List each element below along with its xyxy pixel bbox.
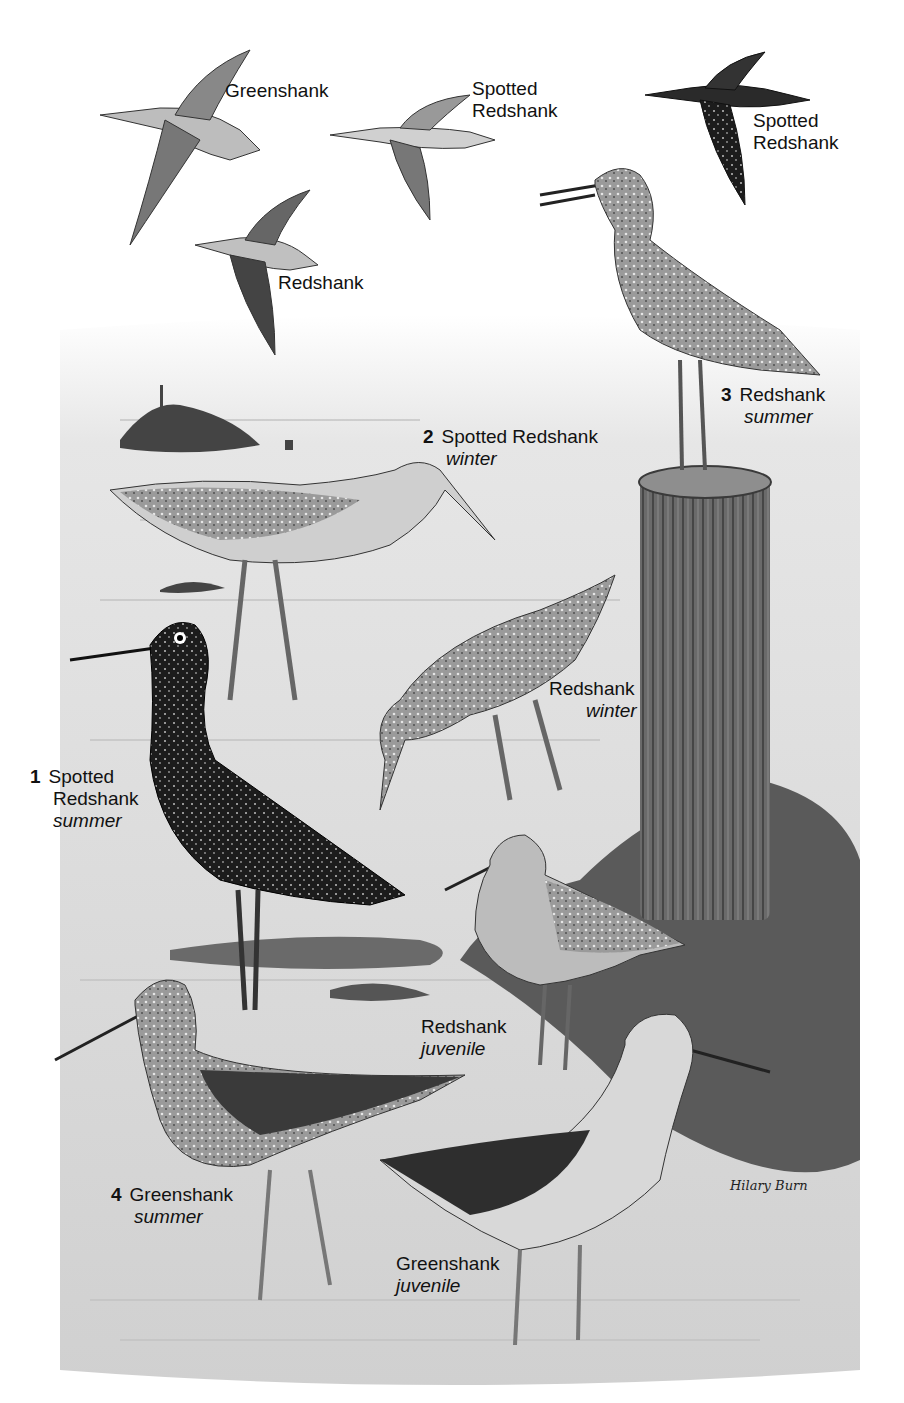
label-spotted-redshank-flight-1: Spotted Redshank bbox=[472, 78, 558, 122]
label-name-line1: Spotted bbox=[49, 766, 115, 787]
label-season: summer bbox=[111, 1206, 233, 1228]
label-2-spotted-redshank-winter: 2Spotted Redshank winter bbox=[423, 426, 598, 470]
label-name-line2: Redshank bbox=[472, 100, 558, 122]
label-name-line1: Spotted bbox=[753, 110, 839, 132]
label-redshank-juvenile: Redshank juvenile bbox=[421, 1016, 507, 1060]
label-name-line2: Redshank bbox=[753, 132, 839, 154]
label-name: Redshank bbox=[421, 1016, 507, 1038]
label-name-line1: Spotted bbox=[472, 78, 558, 100]
label-greenshank-flight: Greenshank bbox=[225, 80, 329, 102]
label-name: Redshank bbox=[278, 272, 364, 294]
label-4-greenshank-summer: 4Greenshank summer bbox=[111, 1184, 233, 1228]
label-number: 2 bbox=[423, 426, 434, 447]
label-spotted-redshank-flight-2: Spotted Redshank bbox=[753, 110, 839, 154]
label-name-line2: Redshank bbox=[30, 788, 139, 810]
label-season: winter bbox=[549, 700, 637, 722]
label-season: juvenile bbox=[396, 1275, 500, 1297]
label-name: Greenshank bbox=[396, 1253, 500, 1275]
wooden-post bbox=[639, 466, 771, 920]
bird-spotted-redshank-flight-1 bbox=[330, 95, 495, 220]
label-1-spotted-redshank-summer: 1Spotted Redshank summer bbox=[30, 766, 139, 832]
field-guide-plate: Greenshank Spotted Redshank Spotted Reds… bbox=[0, 0, 904, 1403]
label-season: juvenile bbox=[421, 1038, 507, 1060]
label-name: Greenshank bbox=[225, 80, 329, 102]
label-number: 1 bbox=[30, 766, 41, 787]
label-name: Redshank bbox=[549, 678, 637, 700]
label-name: Greenshank bbox=[130, 1184, 234, 1205]
label-number: 3 bbox=[721, 384, 732, 405]
label-name: Spotted Redshank bbox=[442, 426, 598, 447]
label-name: Redshank bbox=[740, 384, 826, 405]
label-greenshank-juvenile: Greenshank juvenile bbox=[396, 1253, 500, 1297]
label-redshank-winter: Redshank winter bbox=[549, 678, 637, 722]
label-redshank-flight: Redshank bbox=[278, 272, 364, 294]
label-season: summer bbox=[30, 810, 139, 832]
label-season: summer bbox=[721, 406, 825, 428]
label-3-redshank-summer: 3Redshank summer bbox=[721, 384, 825, 428]
label-season: winter bbox=[423, 448, 598, 470]
illustrator-signature: Hilary Burn bbox=[730, 1178, 808, 1193]
label-number: 4 bbox=[111, 1184, 122, 1205]
